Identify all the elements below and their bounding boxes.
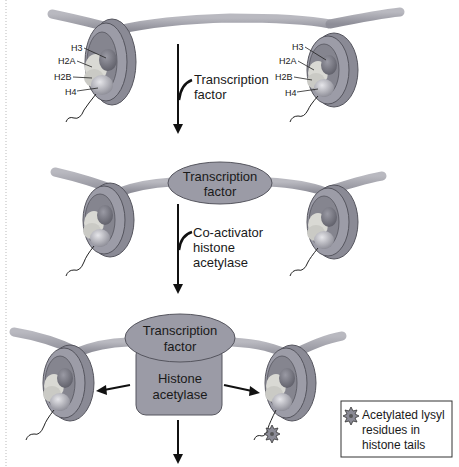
stage-1: H3 H2A H2B H4 H3 H2A H2B [52,12,400,134]
hat-label-line1: Histone [158,371,202,386]
hat-label-line2: acetylase [153,387,208,402]
histone-tail [66,246,94,276]
label-h2a: H2A [279,56,297,66]
histone-h4 [314,79,334,97]
legend-text-line3: histone tails [362,438,425,452]
label-h4: H4 [65,87,77,97]
nucleosome-left [26,345,94,440]
nucleosome-left [66,183,134,276]
histone-acetylation-diagram: H3 H2A H2B H4 H3 H2A H2B [0,0,459,467]
histone-acetylase-complex: Transcription factor Histone acetylase [125,314,235,415]
histone-tail [66,94,96,122]
histone-tail [290,96,318,122]
stage-2: Transcription factor Co-activator histon… [55,162,382,294]
label-h2a: H2A [58,56,76,66]
arrow-head [173,124,183,134]
transcription-factor [125,314,235,362]
dna-strand [118,18,330,30]
histone-h3 [99,49,117,71]
dna-strand [268,182,325,192]
arrow-head [173,284,183,294]
label-h2b: H2B [54,72,72,82]
arrow-label-line1: Transcription [194,72,269,87]
arrow-label-line3: acetylase [193,255,248,270]
arrow-head [96,385,107,395]
nucleosome-right [254,345,316,443]
histone-h4 [91,75,113,95]
tf-label-line1: Transcription [183,169,258,184]
tf-label-line2: factor [204,184,237,199]
tf-label-line1: Transcription [143,323,218,338]
histone-tail [26,410,54,440]
label-h4: H4 [285,88,297,98]
legend-text-line2: residues in [362,423,420,437]
transcription-factor: Transcription factor [168,162,272,204]
legend-text-line1: Acetylated lysyl [362,408,445,422]
arrow-label-line1: Co-activator [193,225,264,240]
arrow-label-line2: factor [194,87,227,102]
arrow-left [104,385,130,390]
nucleosome-left [66,19,136,122]
dna-strand [120,182,172,192]
nucleosome-right [290,185,358,276]
dna-strand [78,342,128,352]
histone-tail [290,248,318,276]
dna-strand [330,12,400,24]
arrow-branch [179,80,192,100]
label-h2b: H2B [275,72,293,82]
legend: Acetylated lysyl residues in histone tai… [341,401,452,457]
label-h3: H3 [71,43,83,53]
label-h3: H3 [292,42,304,52]
arrow-head [249,386,260,396]
stage-3: Transcription factor Histone acetylase [14,314,342,464]
arrow-head [173,454,183,464]
arrow-right [224,385,252,391]
arrow-branch [179,232,192,250]
tf-label-line2: factor [164,339,197,354]
arrow-label-line2: histone [193,240,235,255]
